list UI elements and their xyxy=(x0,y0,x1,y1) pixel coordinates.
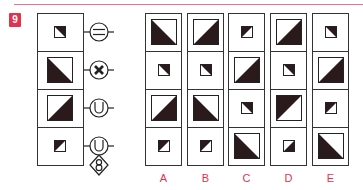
option-e-triangle-2 xyxy=(318,57,344,83)
circle-u-icon xyxy=(84,99,114,117)
option-a-triangle-3 xyxy=(151,95,177,121)
sequence-triangle-4 xyxy=(54,140,66,152)
sequence-triangle-1 xyxy=(54,26,66,38)
option-e-triangle-4 xyxy=(318,133,344,159)
option-c-triangle-3 xyxy=(241,102,253,114)
circle-x-icon xyxy=(84,61,114,79)
option-e-label[interactable]: E xyxy=(313,172,349,184)
option-a-triangle-4 xyxy=(158,140,170,152)
option-a-triangle-1 xyxy=(151,19,177,45)
option-d-triangle-4 xyxy=(283,140,295,152)
option-b-triangle-1 xyxy=(193,19,219,45)
question-number-badge: 9 xyxy=(9,13,21,27)
option-a-triangle-2 xyxy=(158,64,170,76)
option-b-triangle-2 xyxy=(200,64,212,76)
option-b-triangle-3 xyxy=(193,95,219,121)
option-b-label[interactable]: B xyxy=(188,172,224,184)
header-rule xyxy=(14,4,363,5)
option-d-triangle-1 xyxy=(276,19,302,45)
option-e-triangle-3 xyxy=(325,102,337,114)
option-c-triangle-2 xyxy=(234,57,260,83)
option-c-triangle-4 xyxy=(234,133,260,159)
sequence-symbols xyxy=(84,13,132,185)
option-b-triangle-4 xyxy=(200,140,212,152)
option-e-triangle-1 xyxy=(325,26,337,38)
option-a-label[interactable]: A xyxy=(146,172,182,184)
sequence-triangle-3 xyxy=(47,95,73,121)
option-c-triangle-1 xyxy=(241,26,253,38)
option-d-triangle-3 xyxy=(276,95,302,121)
option-d-label[interactable]: D xyxy=(271,172,307,184)
circle-equals-icon xyxy=(84,23,114,41)
circle-u-diamond-icon xyxy=(84,137,114,175)
option-d-triangle-2 xyxy=(283,64,295,76)
option-c-label[interactable]: C xyxy=(229,172,265,184)
sequence-triangle-2 xyxy=(47,57,73,83)
